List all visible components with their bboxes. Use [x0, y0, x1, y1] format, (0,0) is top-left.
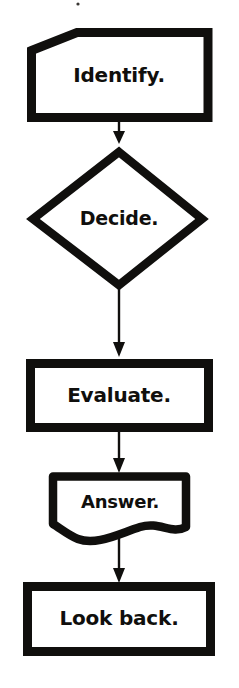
arrow-head-1: [113, 131, 125, 144]
scan-speck: [76, 2, 79, 5]
identify-label: Identify.: [73, 63, 165, 87]
flowchart-diagram: Identify. Decide. Evaluate.: [0, 0, 239, 688]
node-decide[interactable]: Decide.: [33, 152, 202, 285]
connector-decide-to-evaluate: [113, 287, 125, 357]
flowchart-canvas: Identify. Decide. Evaluate.: [0, 0, 239, 688]
decide-label: Decide.: [80, 207, 159, 229]
arrow-head-2: [113, 342, 125, 357]
node-identify[interactable]: Identify.: [32, 33, 209, 118]
node-evaluate[interactable]: Evaluate.: [31, 364, 209, 428]
node-answer[interactable]: Answer.: [53, 477, 186, 542]
evaluate-label: Evaluate.: [67, 383, 171, 407]
connector-identify-to-decide: [113, 121, 125, 144]
arrow-head-4: [113, 568, 125, 583]
answer-label: Answer.: [81, 491, 159, 512]
connector-evaluate-to-answer: [113, 432, 125, 473]
arrow-head-3: [113, 458, 125, 473]
lookback-label: Look back.: [59, 606, 178, 630]
node-lookback[interactable]: Look back.: [28, 587, 211, 652]
connector-answer-to-lookback: [113, 538, 125, 583]
